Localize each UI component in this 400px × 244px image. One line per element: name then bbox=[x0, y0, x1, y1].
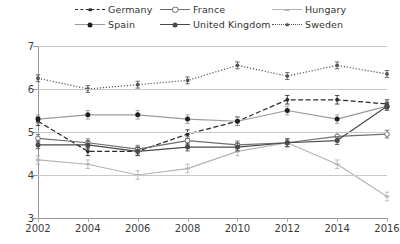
data-point bbox=[385, 196, 390, 198]
data-point bbox=[385, 72, 389, 76]
x-axis-tick-label: 2016 bbox=[374, 223, 399, 234]
data-point bbox=[335, 117, 340, 122]
data-point bbox=[86, 163, 91, 165]
x-axis-tick-label: 2006 bbox=[125, 223, 150, 234]
data-point bbox=[136, 83, 140, 87]
data-point bbox=[285, 140, 290, 145]
data-point bbox=[186, 79, 190, 83]
series-sweden bbox=[36, 62, 389, 93]
y-axis-tick-label: 5 bbox=[22, 127, 34, 138]
series-hungary bbox=[36, 138, 390, 200]
data-point bbox=[185, 145, 190, 150]
data-point bbox=[36, 136, 41, 141]
data-point bbox=[235, 145, 240, 150]
data-point bbox=[235, 119, 240, 124]
x-axis-tick-label: 2012 bbox=[275, 223, 300, 234]
data-point bbox=[36, 117, 41, 122]
x-tick-mark bbox=[138, 218, 139, 222]
series-spain bbox=[36, 102, 390, 126]
x-axis-tick-label: 2004 bbox=[75, 223, 100, 234]
data-point bbox=[36, 76, 40, 80]
series-line bbox=[38, 106, 387, 151]
data-point bbox=[236, 63, 240, 67]
data-point bbox=[335, 98, 339, 102]
x-axis-tick-label: 2014 bbox=[324, 223, 349, 234]
y-axis-tick-label: 4 bbox=[22, 170, 34, 181]
data-point bbox=[135, 112, 140, 117]
data-point bbox=[285, 108, 290, 113]
y-axis-tick-label: 6 bbox=[22, 84, 34, 95]
x-tick-mark bbox=[387, 218, 388, 222]
data-point bbox=[185, 138, 190, 143]
data-point bbox=[385, 104, 390, 109]
data-point bbox=[335, 138, 340, 143]
data-point bbox=[335, 163, 340, 165]
y-axis-tick-label: 7 bbox=[22, 41, 34, 52]
gridline bbox=[38, 46, 387, 47]
data-point bbox=[36, 142, 41, 147]
x-axis-tick-label: 2008 bbox=[175, 223, 200, 234]
x-axis-tick-label: 2002 bbox=[25, 223, 50, 234]
y-axis-tick-label: 3 bbox=[22, 213, 34, 224]
data-point bbox=[185, 117, 190, 122]
data-point bbox=[335, 63, 339, 67]
data-point bbox=[85, 112, 90, 117]
data-point bbox=[285, 98, 289, 102]
x-tick-mark bbox=[188, 218, 189, 222]
x-tick-mark bbox=[88, 218, 89, 222]
x-tick-mark bbox=[337, 218, 338, 222]
x-axis-tick-label: 2010 bbox=[225, 223, 250, 234]
data-point bbox=[86, 149, 90, 153]
x-tick-mark bbox=[237, 218, 238, 222]
gridline bbox=[38, 89, 387, 90]
gridline bbox=[38, 132, 387, 133]
data-point bbox=[85, 142, 90, 147]
x-tick-mark bbox=[287, 218, 288, 222]
data-point bbox=[36, 159, 41, 161]
gridline bbox=[38, 175, 387, 176]
data-point bbox=[285, 74, 289, 78]
series-line bbox=[38, 65, 387, 89]
data-point bbox=[135, 149, 140, 154]
data-point bbox=[185, 168, 190, 170]
x-tick-mark bbox=[38, 218, 39, 222]
